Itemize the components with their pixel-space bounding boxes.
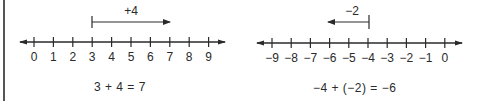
tick-label: 6: [147, 50, 154, 64]
tick-label: 1: [50, 50, 57, 64]
arrow-left-end-icon: [19, 40, 27, 45]
equation-right: −4 + (−2) = −6: [313, 81, 396, 95]
tick-label: −5: [342, 51, 356, 65]
arrow-left-end-icon: [256, 41, 264, 46]
tick-label: −1: [419, 51, 433, 65]
tick-label: 9: [205, 50, 212, 64]
tick-label: 0: [441, 51, 448, 65]
number-line-diagrams: 0123456789 +4 −9−8−7−6−5−4−3−2−10 −2: [0, 0, 483, 101]
tick-label: 8: [186, 50, 193, 64]
tick-labels-right: −9−8−7−6−5−4−3−2−10: [265, 51, 448, 65]
tick-label: 0: [31, 50, 38, 64]
tick-label: 5: [128, 50, 135, 64]
equation-left: 3 + 4 = 7: [94, 80, 146, 94]
number-line-left: 0123456789: [19, 37, 226, 64]
tick-label: −2: [400, 51, 414, 65]
tick-label: −9: [265, 51, 279, 65]
tick-label: 4: [108, 50, 115, 64]
arrow-right-end-icon: [455, 41, 463, 46]
tick-label: −6: [323, 51, 337, 65]
tick-label: −4: [361, 51, 375, 65]
tick-label: 3: [89, 50, 96, 64]
move-label: +4: [124, 4, 138, 18]
tick-labels-left: 0123456789: [31, 50, 213, 64]
move-arrow-minus2: −2: [328, 4, 369, 29]
move-arrow-plus4: +4: [92, 4, 170, 28]
move-label: −2: [345, 4, 359, 18]
tick-label: −8: [284, 51, 298, 65]
tick-label: 2: [69, 50, 76, 64]
tick-label: −3: [380, 51, 394, 65]
number-line-right: −9−8−7−6−5−4−3−2−10: [256, 38, 463, 65]
arrow-right-end-icon: [218, 40, 226, 45]
tick-label: 7: [166, 50, 173, 64]
tick-label: −7: [304, 51, 318, 65]
